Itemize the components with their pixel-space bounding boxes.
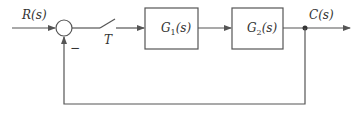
block-diagram: R(s) T G1(s) G2(s) C(s) − [0, 0, 355, 115]
input-label: R(s) [21, 8, 47, 22]
summing-junction [56, 20, 72, 36]
block-g2-label: G2(s) [247, 21, 278, 37]
switch-label: T [104, 33, 113, 47]
block-g1-label: G1(s) [161, 21, 192, 37]
output-label: C(s) [309, 8, 334, 22]
sampler-switch-icon [100, 19, 115, 28]
feedback-sign: − [70, 41, 80, 55]
